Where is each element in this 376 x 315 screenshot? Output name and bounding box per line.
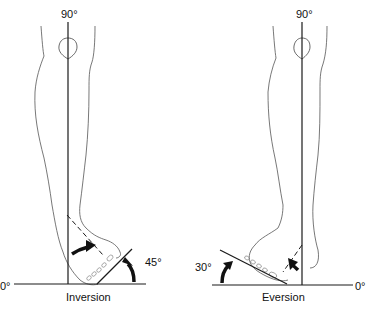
dashed-axis-line — [283, 245, 302, 272]
eversion-vertical-label: 90° — [296, 9, 313, 20]
diagram-canvas — [0, 0, 376, 315]
foot-outline — [250, 262, 288, 281]
inversion-vertical-label: 90° — [61, 9, 78, 20]
inversion-caption: Inversion — [66, 292, 111, 303]
angle-arrow-icon — [122, 257, 134, 282]
leg-outline-left — [35, 26, 63, 252]
inversion-angle-label: 45° — [145, 257, 162, 268]
eversion-figure — [212, 22, 353, 285]
eversion-motion-arrow-icon — [288, 258, 298, 270]
leg-outline-right — [80, 26, 106, 240]
eversion-angle-label: 30° — [195, 262, 212, 273]
leg-outline-right — [310, 26, 327, 268]
inversion-baseline-label: 0° — [0, 281, 11, 292]
angle-arrow-icon — [222, 261, 233, 283]
eversion-caption: Eversion — [262, 292, 305, 303]
inversion-figure — [14, 22, 146, 285]
toes — [86, 254, 114, 281]
leg-outline-left — [249, 26, 283, 262]
eversion-baseline-label: 0° — [355, 281, 366, 292]
inversion-motion-arrow-icon — [72, 240, 96, 254]
